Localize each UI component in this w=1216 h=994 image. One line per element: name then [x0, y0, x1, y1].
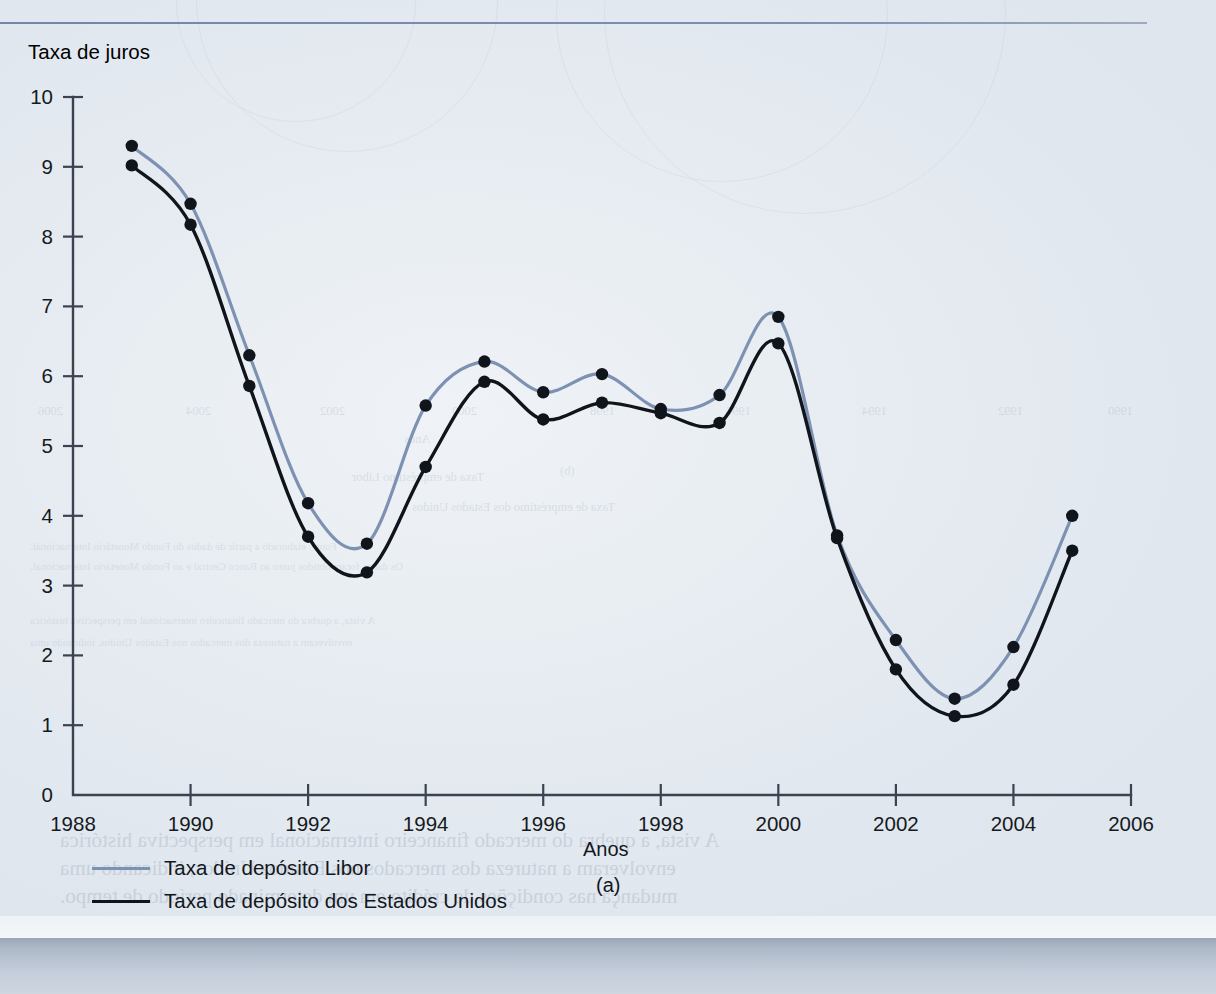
svg-text:1990: 1990: [168, 812, 214, 835]
legend-label-united-states: Taxa de depósito dos Estados Unidos: [164, 889, 507, 913]
svg-text:5: 5: [42, 434, 53, 457]
chart-legend: Taxa de depósito Libor Taxa de depósito …: [92, 856, 507, 913]
svg-text:2: 2: [42, 643, 53, 666]
data-series-lines: [132, 146, 1072, 717]
svg-text:10: 10: [30, 85, 53, 108]
footer-band: [0, 938, 1216, 994]
svg-text:6: 6: [42, 364, 53, 387]
svg-text:1988: 1988: [50, 812, 96, 835]
svg-text:1994: 1994: [403, 812, 449, 835]
footer-white-strip: [0, 916, 1216, 938]
axis-ticks: [63, 97, 1131, 806]
data-point-markers: [126, 140, 1079, 723]
figure-caption: (a): [596, 874, 620, 897]
legend-swatch-libor: [92, 867, 150, 870]
svg-text:0: 0: [42, 783, 53, 806]
x-axis-title: Anos: [583, 838, 629, 861]
svg-text:8: 8: [42, 225, 53, 248]
svg-text:1996: 1996: [520, 812, 566, 835]
svg-text:2006: 2006: [1108, 812, 1154, 835]
legend-swatch-united-states: [92, 900, 150, 903]
svg-text:4: 4: [42, 504, 53, 527]
svg-text:2004: 2004: [991, 812, 1037, 835]
svg-text:1: 1: [42, 713, 53, 736]
svg-text:1992: 1992: [285, 812, 331, 835]
legend-label-libor: Taxa de depósito Libor: [164, 856, 370, 880]
y-axis-title: Taxa de juros: [28, 40, 150, 64]
svg-text:3: 3: [42, 574, 53, 597]
svg-text:9: 9: [42, 155, 53, 178]
legend-item-united-states: Taxa de depósito dos Estados Unidos: [92, 889, 507, 913]
svg-text:1998: 1998: [638, 812, 684, 835]
legend-item-libor: Taxa de depósito Libor: [92, 856, 507, 880]
svg-text:7: 7: [42, 294, 53, 317]
chart-axes: [73, 97, 1131, 795]
svg-text:2002: 2002: [873, 812, 919, 835]
axis-tick-labels: 0123456789101988199019921994199619982000…: [30, 85, 1154, 835]
interest-rate-line-chart: 0123456789101988199019921994199619982000…: [0, 0, 1216, 994]
svg-text:2000: 2000: [756, 812, 802, 835]
